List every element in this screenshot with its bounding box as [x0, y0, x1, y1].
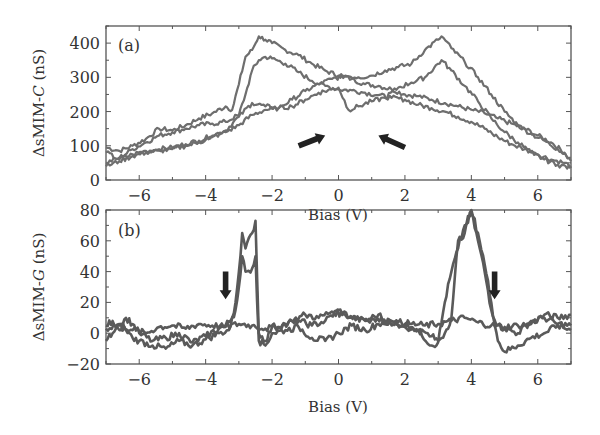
- x-tick-label: −2: [260, 186, 284, 205]
- panel-a-label: (a): [118, 36, 140, 55]
- x-tick-label: −2: [260, 370, 284, 389]
- x-tick-label: 6: [533, 370, 543, 389]
- y-tick-label: 200: [69, 103, 100, 122]
- y-tick-label: 0: [90, 171, 100, 190]
- figure: −6−4−202460100200300400 (a) Bias (V) ΔsM…: [0, 0, 600, 435]
- panel-a-ylabel: ΔsMIM-C (nS): [30, 49, 48, 157]
- panel-a-arrows: [298, 133, 407, 150]
- x-tick-label: 0: [333, 186, 343, 205]
- arrow-icon: [220, 272, 232, 300]
- x-tick-label: −6: [127, 186, 151, 205]
- panel-b-ylabel: ΔsMIM-G (nS): [30, 233, 48, 342]
- panel-b-curves: [106, 210, 571, 352]
- x-tick-label: 2: [400, 370, 410, 389]
- x-tick-label: 4: [466, 186, 476, 205]
- y-tick-label: 40: [80, 263, 100, 282]
- y-tick-label: 300: [69, 68, 100, 87]
- arrow-icon: [298, 133, 326, 148]
- y-tick-label: 400: [69, 34, 100, 53]
- panel-a-curves: [106, 36, 571, 168]
- panel-b: −6−4−20246−20020406080 (b) Bias (V) ΔsMI…: [30, 201, 571, 416]
- x-tick-label: 6: [533, 186, 543, 205]
- x-tick-label: 4: [466, 370, 476, 389]
- y-tick-label: 60: [80, 232, 100, 251]
- panel-b-xlabel: Bias (V): [308, 398, 368, 416]
- y-tick-label: −20: [66, 355, 100, 374]
- x-tick-label: 0: [333, 370, 343, 389]
- panel-a-frame: [106, 26, 571, 180]
- x-tick-label: 2: [400, 186, 410, 205]
- y-tick-label: 0: [90, 324, 100, 343]
- x-tick-label: −4: [194, 186, 218, 205]
- series-line-sweep-2: [106, 57, 571, 168]
- panel-b-label: (b): [118, 221, 141, 240]
- x-tick-label: −6: [127, 370, 151, 389]
- series-line-sweep-3: [106, 36, 571, 159]
- y-tick-label: 100: [69, 137, 100, 156]
- series-line-sweep-1: [106, 36, 571, 161]
- x-tick-label: −4: [194, 370, 218, 389]
- y-tick-label: 80: [80, 201, 100, 220]
- y-tick-label: 20: [80, 293, 100, 312]
- panel-b-arrows: [220, 272, 501, 300]
- panel-a: −6−4−202460100200300400 (a) Bias (V) ΔsM…: [30, 26, 571, 224]
- arrow-icon: [378, 134, 406, 150]
